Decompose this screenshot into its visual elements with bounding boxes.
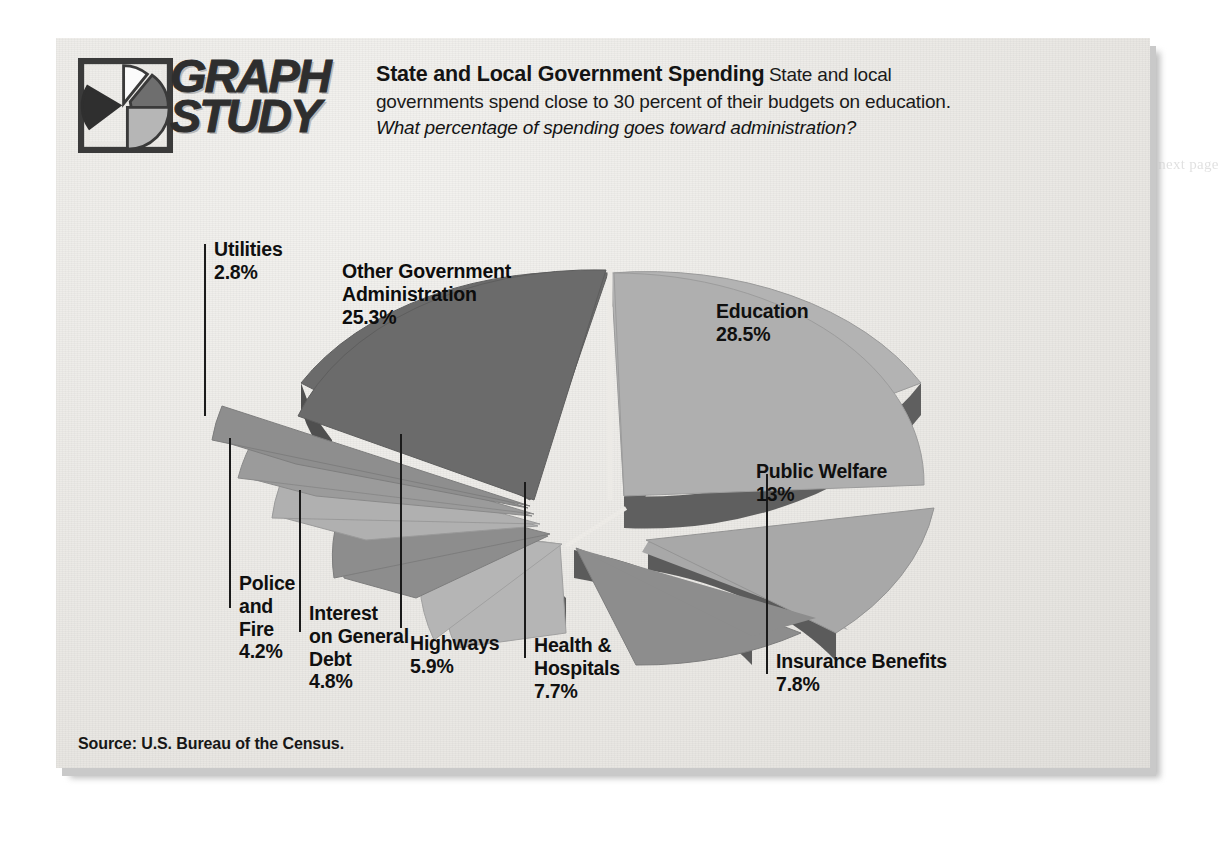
leader-health — [524, 482, 526, 658]
label-highways-name: Highways — [410, 632, 499, 654]
pie-chart-logo-icon — [78, 58, 173, 153]
label-police: Police and Fire 4.2% — [239, 572, 295, 663]
label-insurance-pct: 7.8% — [776, 673, 947, 696]
leader-interest — [299, 490, 301, 632]
label-police-pct: 4.2% — [239, 640, 295, 663]
label-education: Education 28.5% — [716, 300, 808, 346]
label-insurance-name: Insurance Benefits — [776, 650, 947, 672]
label-other-admin-name: Other Government — [342, 260, 511, 282]
label-education-pct: 28.5% — [716, 323, 808, 346]
label-utilities-pct: 2.8% — [214, 261, 283, 284]
label-highways: Highways 5.9% — [410, 632, 499, 678]
leader-police — [229, 438, 231, 608]
intro-text-part-1: State and local — [769, 64, 892, 85]
headline-block: State and Local Government Spending Stat… — [376, 62, 1126, 139]
card-header: GRAPH STUDY State and Local Government S… — [78, 52, 1132, 174]
label-utilities-name: Utilities — [214, 238, 283, 260]
label-interest-name: Interest — [309, 602, 378, 624]
headline-line-1: State and Local Government Spending Stat… — [376, 62, 1126, 87]
label-other-admin-name2: Administration — [342, 283, 511, 306]
label-health: Health & Hospitals 7.7% — [534, 634, 620, 702]
leader-utilities — [204, 244, 206, 416]
source-note: Source: U.S. Bureau of the Census. — [78, 735, 344, 753]
label-other-admin-pct: 25.3% — [342, 306, 511, 329]
logo-line-study: STUDY — [170, 96, 330, 136]
label-public-welfare-name: Public Welfare — [756, 460, 887, 482]
label-public-welfare: Public Welfare 13% — [756, 460, 887, 506]
label-police-name: Police — [239, 572, 295, 594]
label-health-pct: 7.7% — [534, 680, 620, 703]
label-health-name: Health & — [534, 634, 612, 656]
label-interest-pct: 4.8% — [309, 670, 409, 693]
label-highways-pct: 5.9% — [410, 655, 499, 678]
graph-study-logo: GRAPH STUDY — [78, 58, 200, 170]
label-police-name2: and — [239, 595, 295, 618]
study-question: What percentage of spending goes toward … — [376, 117, 1126, 139]
label-interest: Interest on General Debt 4.8% — [309, 602, 409, 693]
intro-text-part-2: governments spend close to 30 percent of… — [376, 91, 1126, 113]
label-insurance: Insurance Benefits 7.8% — [776, 650, 947, 696]
label-utilities: Utilities 2.8% — [214, 238, 283, 284]
graph-study-card: GRAPH STUDY State and Local Government S… — [56, 38, 1150, 768]
logo-wordmark: GRAPH STUDY — [170, 56, 330, 137]
label-other-admin: Other Government Administration 25.3% — [342, 260, 511, 328]
label-education-name: Education — [716, 300, 808, 322]
page-title: State and Local Government Spending — [376, 62, 764, 86]
label-police-name3: Fire — [239, 618, 295, 641]
label-public-welfare-pct: 13% — [756, 483, 887, 506]
label-health-name2: Hospitals — [534, 657, 620, 680]
label-interest-name2: on General — [309, 625, 409, 648]
leader-highways — [400, 434, 402, 628]
label-interest-name3: Debt — [309, 648, 409, 671]
